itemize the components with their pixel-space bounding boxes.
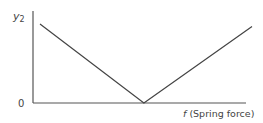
x-axis-label: f (Spring force): [183, 108, 254, 119]
y-tick-zero: 0: [18, 98, 24, 109]
y-axis-label: y2: [12, 10, 25, 24]
v-shaped-chart: y2 0 f (Spring force): [0, 0, 263, 123]
y-axis-label-subscript: 2: [20, 15, 25, 24]
data-line: [40, 24, 252, 103]
x-axis-label-text: (Spring force): [186, 108, 254, 119]
